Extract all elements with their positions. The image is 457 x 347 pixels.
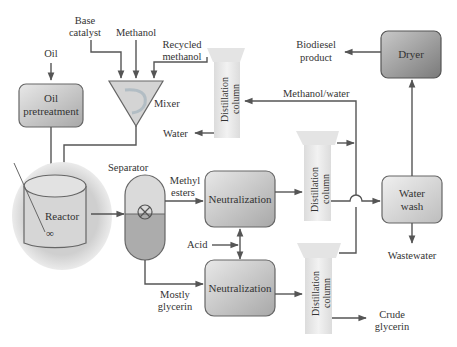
dryer-label: Dryer bbox=[398, 48, 424, 60]
mostly-glycerin-label-2: glycerin bbox=[158, 301, 193, 312]
reactor-label: Reactor bbox=[45, 210, 80, 222]
methanol-water-label: Methanol/water bbox=[283, 88, 350, 99]
water-wash-label-2: wash bbox=[401, 200, 424, 212]
crude-glycerin-label: Crude bbox=[379, 309, 405, 320]
column-mid-to-water-wash-flow bbox=[331, 195, 380, 201]
methanol-input-label: Methanol bbox=[116, 27, 156, 38]
oil-pretreatment-label-2: pretreatment bbox=[23, 105, 79, 117]
neutralization-bottom-label: Neutralization bbox=[209, 282, 272, 294]
distillation-column-mid-label-2: column bbox=[320, 174, 331, 204]
acid-label: Acid bbox=[187, 239, 208, 250]
biodiesel-product-label: Biodiesel bbox=[296, 39, 336, 50]
separator bbox=[125, 175, 165, 260]
water-output-label: Water bbox=[163, 128, 188, 139]
oil-pretreatment-label: Oil bbox=[44, 92, 58, 104]
biodiesel-product-label-2: product bbox=[300, 52, 332, 63]
methyl-esters-label-2: esters bbox=[171, 187, 195, 198]
agitator-icon: ∞ bbox=[46, 227, 54, 239]
distillation-column-top-label-2: column bbox=[230, 84, 241, 114]
separator-label: Separator bbox=[108, 162, 149, 173]
distillation-column-mid-label: Distillation bbox=[309, 167, 320, 212]
water-wash-label: Water bbox=[399, 187, 425, 199]
mixer-label: Mixer bbox=[154, 98, 180, 109]
distillation-column-bottom-label-2: column bbox=[321, 278, 332, 308]
mostly-glycerin-label: Mostly bbox=[160, 289, 191, 300]
glycerin-flow bbox=[145, 260, 203, 284]
recycled-methanol-label: Recycled bbox=[162, 39, 202, 50]
base-catalyst-flow bbox=[91, 40, 121, 78]
oil-input-label: Oil bbox=[44, 48, 58, 59]
distillation-column-bottom-label: Distillation bbox=[310, 271, 321, 316]
crude-glycerin-label-2: glycerin bbox=[375, 321, 410, 332]
distillation-column-top-label: Distillation bbox=[219, 77, 230, 122]
base-catalyst-label-2: catalyst bbox=[69, 27, 101, 38]
methyl-esters-label: Methyl bbox=[170, 175, 200, 186]
base-catalyst-label: Base bbox=[75, 15, 96, 26]
recycled-methanol-label-2: methanol bbox=[162, 51, 201, 62]
neutralization-top-label: Neutralization bbox=[209, 193, 272, 205]
biodiesel-process-diagram: Oil Base catalyst Methanol Recycled meth… bbox=[0, 0, 457, 347]
wastewater-label: Wastewater bbox=[388, 250, 437, 261]
